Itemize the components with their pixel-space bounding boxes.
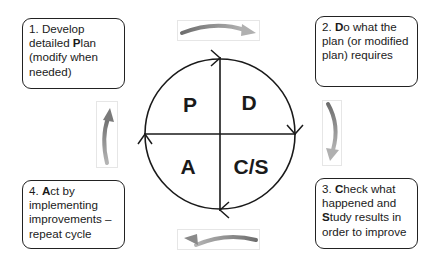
arrow-left-icon bbox=[103, 108, 114, 163]
pdsa-diagram: P D A C/S bbox=[0, 0, 441, 265]
arrowhead-bottom-icon bbox=[220, 202, 229, 218]
arrow-right-icon bbox=[326, 104, 339, 161]
arrowhead-top-icon bbox=[211, 50, 220, 66]
arrow-top-icon bbox=[182, 24, 256, 36]
quadrant-act-label: A bbox=[180, 155, 195, 178]
quadrant-check-study-label: C/S bbox=[233, 155, 268, 178]
quadrant-plan-label: P bbox=[183, 93, 197, 116]
quadrant-do-label: D bbox=[241, 91, 256, 114]
arrow-bottom-icon bbox=[184, 234, 256, 245]
